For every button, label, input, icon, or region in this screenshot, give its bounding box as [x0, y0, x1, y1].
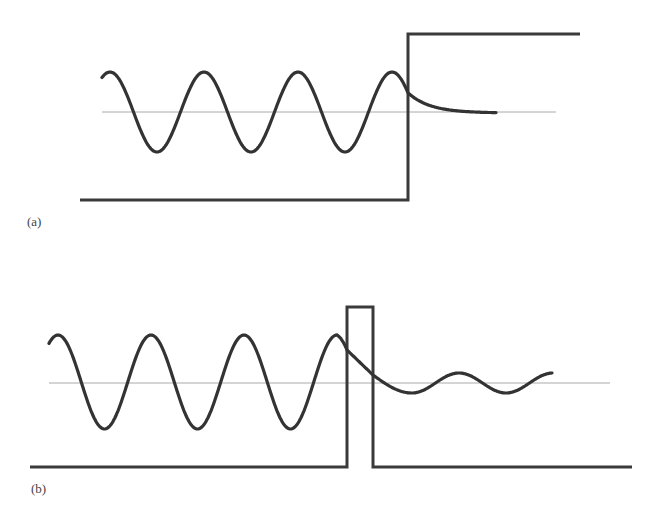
- panel-b-wavefunction: [49, 335, 552, 429]
- panel-a: [80, 34, 580, 200]
- panel-b-barrier-potential: [30, 307, 632, 467]
- panel-b-label: (b): [31, 481, 46, 497]
- panel-a-label: (a): [27, 214, 41, 230]
- panel-a-step-potential: [80, 34, 580, 200]
- panel-b: [30, 307, 632, 467]
- tunneling-diagram: [0, 0, 662, 527]
